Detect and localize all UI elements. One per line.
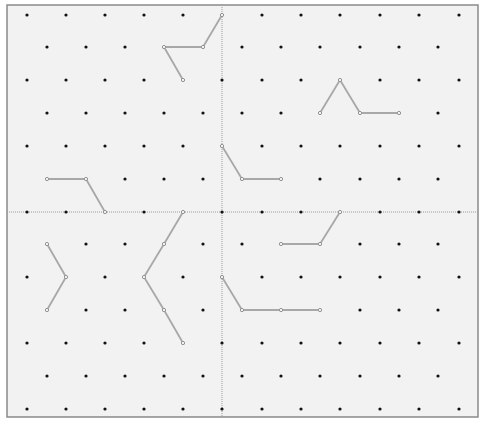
grid-dot: [84, 45, 87, 48]
shape-vertex: [338, 78, 341, 81]
grid-dot: [457, 78, 460, 81]
grid-dot: [201, 111, 204, 114]
grid-dot: [417, 407, 420, 410]
grid-dot: [299, 341, 302, 344]
shape-vertex: [45, 308, 48, 311]
grid-dot: [220, 407, 223, 410]
grid-dot: [162, 374, 165, 377]
grid-dot: [260, 341, 263, 344]
grid-dot: [397, 242, 400, 245]
grid-dot: [436, 177, 439, 180]
shape-vertex: [103, 210, 106, 213]
grid-dot: [240, 111, 243, 114]
grid-dot: [358, 242, 361, 245]
grid-dot: [142, 144, 145, 147]
shape-vertex: [358, 111, 361, 114]
grid-dot: [279, 45, 282, 48]
grid-dot: [299, 210, 302, 213]
shape-vertex: [181, 210, 184, 213]
grid-dot: [397, 45, 400, 48]
grid-dot: [378, 275, 381, 278]
grid-dot: [123, 308, 126, 311]
grid-dot: [378, 78, 381, 81]
grid-dot: [142, 210, 145, 213]
shape-vertex: [318, 308, 321, 311]
grid-dot: [397, 308, 400, 311]
grid-dot: [378, 13, 381, 16]
shape-vertex: [181, 78, 184, 81]
grid-dot: [318, 45, 321, 48]
grid-dot: [260, 13, 263, 16]
grid-dot: [25, 144, 28, 147]
grid-dot: [240, 374, 243, 377]
grid-dot: [103, 407, 106, 410]
grid-dot: [123, 242, 126, 245]
shape-vertex: [201, 45, 204, 48]
grid-dot: [25, 78, 28, 81]
shape-vertex: [279, 242, 282, 245]
shape-vertex: [220, 144, 223, 147]
grid-dot: [103, 144, 106, 147]
grid-dot: [260, 144, 263, 147]
grid-dot: [338, 13, 341, 16]
shape-vertex: [220, 275, 223, 278]
grid-dot: [103, 78, 106, 81]
shape-vertex: [64, 275, 67, 278]
grid-dot: [436, 45, 439, 48]
shape-vertex: [338, 210, 341, 213]
shape-vertex: [45, 177, 48, 180]
grid-dot: [417, 210, 420, 213]
grid-dot: [397, 177, 400, 180]
grid-dot: [318, 177, 321, 180]
grid-dot: [103, 275, 106, 278]
shape-vertex: [240, 308, 243, 311]
grid-dot: [64, 210, 67, 213]
grid-dot: [123, 177, 126, 180]
grid-dot: [457, 341, 460, 344]
grid-dot: [45, 45, 48, 48]
grid-dot: [84, 242, 87, 245]
grid-dot: [358, 374, 361, 377]
grid-dot: [181, 13, 184, 16]
grid-dot: [123, 111, 126, 114]
grid-dot: [299, 275, 302, 278]
grid-dot: [142, 341, 145, 344]
grid-dot: [64, 13, 67, 16]
grid-dot: [457, 210, 460, 213]
grid-dot: [45, 111, 48, 114]
grid-dot: [220, 210, 223, 213]
grid-dot: [64, 144, 67, 147]
grid-dot: [457, 144, 460, 147]
grid-dot: [142, 13, 145, 16]
grid-dot: [299, 144, 302, 147]
grid-dot: [181, 407, 184, 410]
shape-vertex: [318, 111, 321, 114]
grid-dot: [417, 275, 420, 278]
grid-dot: [338, 341, 341, 344]
grid-dot: [436, 374, 439, 377]
grid-dot: [64, 78, 67, 81]
shape-vertex: [279, 308, 282, 311]
grid-dot: [103, 13, 106, 16]
grid-dot: [64, 407, 67, 410]
grid-dot: [240, 242, 243, 245]
grid-dot: [299, 13, 302, 16]
grid-dot: [84, 374, 87, 377]
grid-dot: [436, 242, 439, 245]
shape-vertex: [84, 177, 87, 180]
shape-vertex: [279, 177, 282, 180]
shape-vertex: [240, 177, 243, 180]
grid-dot: [378, 210, 381, 213]
grid-dot: [142, 407, 145, 410]
grid-dot: [358, 177, 361, 180]
grid-dot: [417, 341, 420, 344]
grid-dot: [25, 13, 28, 16]
grid-dot: [260, 275, 263, 278]
grid-dot: [260, 78, 263, 81]
grid-frame: [7, 5, 478, 417]
shape-vertex: [45, 242, 48, 245]
grid-dot: [201, 242, 204, 245]
grid-dot: [123, 45, 126, 48]
grid-dot: [299, 407, 302, 410]
grid-dot: [436, 308, 439, 311]
